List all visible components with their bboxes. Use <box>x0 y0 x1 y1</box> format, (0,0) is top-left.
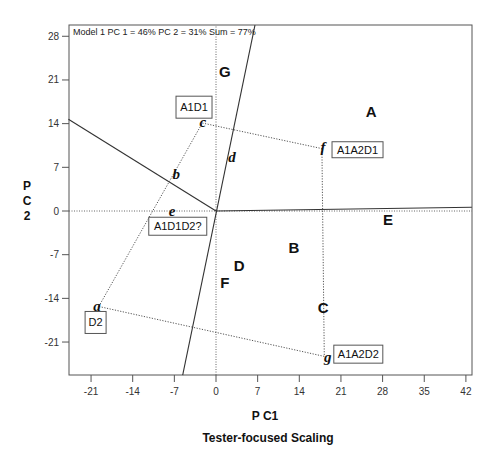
point-C: C <box>318 299 329 316</box>
polygon-edge <box>202 123 322 149</box>
axis-vector-line <box>68 119 216 211</box>
polygon-edge <box>99 306 325 356</box>
y-tick-label: 21 <box>48 74 60 85</box>
vertex-b: b <box>172 166 180 182</box>
x-tick-label: -7 <box>170 386 179 397</box>
x-tick-label: 7 <box>255 386 261 397</box>
label-box-a1d1d2: A1D1D2? <box>149 217 207 235</box>
y-tick-label: -7 <box>50 249 59 260</box>
point-B: B <box>289 239 300 256</box>
label-box-a1d1: A1D1 <box>176 96 212 118</box>
point-E: E <box>383 211 393 228</box>
polygon-edge <box>99 123 203 306</box>
y-axis-title-char: 2 <box>24 209 31 223</box>
point-labels: ABCDEFG <box>219 63 393 316</box>
y-tick-label: 7 <box>53 162 59 173</box>
x-tick-label: -14 <box>125 386 140 397</box>
y-axis-title-char: P <box>23 179 31 193</box>
y-tick-label: -21 <box>45 337 60 348</box>
point-G: G <box>219 63 231 80</box>
x-axis-title: P C1 <box>252 409 279 423</box>
point-F: F <box>220 274 229 291</box>
label-box-text: A1D1 <box>180 101 208 113</box>
x-tick-label: 42 <box>460 386 472 397</box>
label-box-a1a2d2: A1A2D2 <box>334 345 383 363</box>
chart-title: Tester-focused Scaling <box>202 431 333 445</box>
label-box-text: A1D1D2? <box>154 220 202 232</box>
vector-lines <box>68 25 471 375</box>
axis-vector-line <box>216 207 472 211</box>
biplot-chart: -21-14-7071421283542 -21-14-707142128 AB… <box>0 0 495 458</box>
x-axis-ticks: -21-14-7071421283542 <box>84 375 472 397</box>
label-box-d2: D2 <box>85 311 106 333</box>
point-A: A <box>366 103 377 120</box>
point-D: D <box>234 257 245 274</box>
vertex-g: g <box>323 349 332 365</box>
y-axis-title: P C 2 <box>23 179 32 223</box>
plot-area-border <box>69 25 472 375</box>
reference-lines <box>69 25 472 375</box>
y-axis-title-char: C <box>23 194 32 208</box>
label-box-text: A1A2D1 <box>337 144 378 156</box>
model-summary-text: Model 1 PC 1 = 46% PC 2 = 31% Sum = 77% <box>73 27 256 37</box>
x-tick-label: 0 <box>213 386 219 397</box>
label-box-a1a2d1: A1A2D1 <box>332 142 383 158</box>
y-tick-label: 14 <box>48 118 60 129</box>
x-tick-label: -21 <box>84 386 99 397</box>
y-tick-label: -14 <box>45 293 60 304</box>
x-tick-label: 35 <box>419 386 431 397</box>
x-tick-label: 21 <box>335 386 347 397</box>
x-tick-label: 28 <box>377 386 389 397</box>
vertex-d: d <box>228 149 236 165</box>
y-tick-label: 0 <box>53 206 59 217</box>
y-axis-ticks: -21-14-707142128 <box>45 31 69 348</box>
boxed-labels: A1D1A1A2D1A1A2D2D2A1D1D2? <box>85 96 383 363</box>
label-box-text: D2 <box>89 316 103 328</box>
polygon-edge <box>322 149 324 357</box>
x-tick-label: 14 <box>294 386 306 397</box>
label-box-text: A1A2D2 <box>338 348 379 360</box>
vertex-f: f <box>321 139 328 155</box>
plot-frame <box>69 25 472 375</box>
y-tick-label: 28 <box>48 31 60 42</box>
